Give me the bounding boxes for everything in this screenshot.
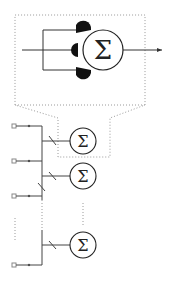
- synapse-icon-middle: [71, 43, 78, 57]
- synapse-icon-bottom: [76, 67, 91, 79]
- input-1: [12, 124, 42, 128]
- neuron-2: Σ: [70, 163, 96, 189]
- neuron-3: Σ: [70, 232, 96, 258]
- big-neuron-sigma: Σ: [94, 35, 112, 65]
- svg-text:Σ: Σ: [77, 167, 88, 186]
- synapse-icon-top: [76, 21, 91, 33]
- inset-neuron: Σ: [22, 21, 162, 80]
- svg-text:Σ: Σ: [77, 132, 88, 151]
- input-2: [12, 159, 42, 163]
- diagram-canvas: Σ: [0, 0, 173, 286]
- svg-text:Σ: Σ: [77, 236, 88, 255]
- neuron-1: Σ: [70, 128, 96, 154]
- input-4: [12, 263, 42, 267]
- input-3: [12, 194, 42, 198]
